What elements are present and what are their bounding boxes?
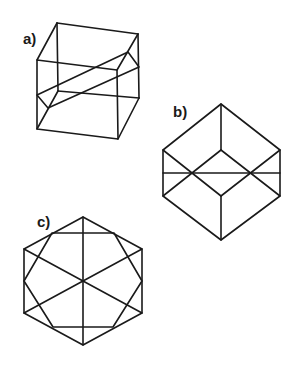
figure-a-cube xyxy=(37,23,139,139)
cube-edge xyxy=(57,23,138,34)
cube-edge xyxy=(37,91,58,129)
cube-edge xyxy=(118,98,139,139)
diagram-canvas: a) b) c) xyxy=(0,0,295,369)
cube-edge xyxy=(57,23,58,91)
cube-edge xyxy=(37,23,57,60)
cutting-plane xyxy=(37,52,139,108)
diagram-drawing xyxy=(0,0,295,369)
figure-b-hexagon-cube xyxy=(163,104,280,240)
cube-edge xyxy=(58,91,139,98)
figure-c-hexagon-section xyxy=(24,217,142,345)
cube-front-face xyxy=(37,60,118,139)
